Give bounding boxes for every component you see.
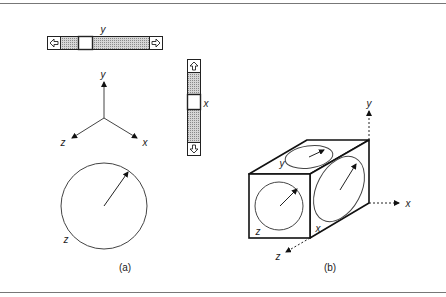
axis-label-x: x — [142, 137, 149, 148]
dial-pointer[interactable] — [104, 172, 128, 206]
dial-axis-label: z — [63, 234, 69, 245]
caption-a: (a) — [119, 262, 131, 273]
world-z-axis — [286, 238, 310, 252]
scrollbar-track[interactable] — [48, 37, 163, 50]
axes-triad: y z x — [60, 69, 149, 148]
caption-b: (b) — [324, 262, 336, 273]
horizontal-scrollbar[interactable]: y — [48, 24, 163, 50]
scrollbar-thumb[interactable] — [188, 95, 201, 110]
arrow-right-icon[interactable] — [150, 37, 163, 50]
cube — [249, 140, 369, 238]
front-face-label: z — [255, 226, 261, 237]
vscroll-axis-label: x — [203, 98, 210, 109]
world-axis-label-y: y — [366, 98, 373, 109]
arrow-down-icon[interactable] — [188, 143, 201, 156]
figure-canvas: y x y z x — [0, 0, 446, 297]
side-face-label: x — [315, 223, 322, 234]
axis-label-z: z — [60, 137, 66, 148]
hscroll-axis-label: y — [100, 24, 107, 35]
rotation-dial[interactable]: z — [61, 163, 147, 249]
vertical-scrollbar[interactable]: x — [188, 60, 210, 156]
world-axis-label-z: z — [275, 251, 281, 262]
arrow-up-icon[interactable] — [188, 60, 201, 73]
top-face-label: y — [279, 158, 286, 169]
panel-b: y z x y x z (b) — [249, 98, 412, 273]
panel-a: y x y z x — [48, 24, 210, 273]
x-axis — [104, 118, 137, 138]
world-axis-label-x: x — [405, 198, 412, 209]
scrollbar-thumb[interactable] — [79, 37, 93, 50]
z-axis — [72, 118, 104, 138]
axis-label-y: y — [100, 69, 107, 80]
arrow-left-icon[interactable] — [48, 37, 61, 50]
